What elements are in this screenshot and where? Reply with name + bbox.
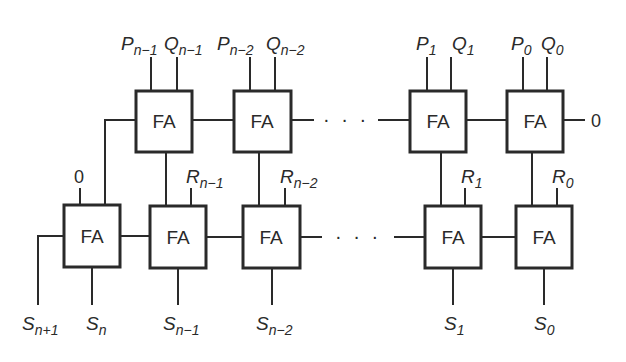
fa-block-top-1: FA (410, 91, 466, 152)
fa-label: FA (523, 111, 547, 132)
fa-block-bottom-n: FA (64, 205, 120, 267)
bottom-input-wires (80, 188, 557, 206)
top-input-labels: Pn−1 Qn−1 Pn−2 Qn−2 P1 Q1 P0 Q0 (121, 33, 564, 58)
label-s-1: S1 (444, 313, 464, 338)
label-q-1: Q1 (452, 33, 475, 58)
fa-block-top-n-1: FA (136, 91, 192, 152)
label-s-n-2: Sn−2 (256, 313, 293, 338)
output-wires (92, 267, 544, 305)
ellipsis-bottom: · · · (335, 225, 381, 247)
output-labels: Sn+1 Sn Sn−1 Sn−2 S1 S0 (22, 313, 555, 338)
label-r-n-1: Rn−1 (186, 166, 223, 191)
ellipsis-top: · · · (323, 108, 369, 130)
fa-label: FA (259, 227, 283, 248)
fa-label: FA (426, 111, 450, 132)
label-q-0: Q0 (541, 33, 564, 58)
label-p-n-1: Pn−1 (121, 33, 157, 58)
fa-label: FA (80, 226, 104, 247)
fa-label: FA (166, 227, 190, 248)
label-q-n-1: Qn−1 (164, 33, 203, 58)
full-adder-array-diagram: FA FA FA FA FA FA FA FA FA · · · · · · P… (0, 0, 626, 362)
bottom-input-labels: 0 Rn−1 Rn−2 R1 R0 (74, 166, 574, 191)
fa-block-top-0: FA (507, 91, 563, 152)
fa-block-bottom-n-1: FA (150, 206, 206, 268)
label-p-1: P1 (416, 33, 436, 58)
label-r-1: R1 (461, 166, 483, 191)
label-s-n-1: Sn−1 (163, 313, 199, 338)
fa-label: FA (152, 111, 176, 132)
label-r-0: R0 (552, 166, 574, 191)
label-s-n+1: Sn+1 (22, 313, 58, 338)
label-carry-in-zero: 0 (591, 111, 601, 131)
label-bottom-zero: 0 (74, 167, 84, 187)
label-s-0: S0 (534, 313, 555, 338)
fa-block-bottom-0: FA (516, 206, 572, 268)
fa-block-bottom-n-2: FA (243, 206, 300, 268)
fa-label: FA (532, 227, 556, 248)
label-p-0: P0 (511, 33, 532, 58)
label-p-n-2: Pn−2 (217, 33, 254, 58)
fa-label: FA (441, 227, 465, 248)
label-r-n-2: Rn−2 (280, 166, 318, 191)
fa-label: FA (250, 111, 274, 132)
fa-block-bottom-1: FA (425, 206, 481, 268)
label-s-n: Sn (86, 313, 107, 338)
label-q-n-2: Qn−2 (266, 33, 305, 58)
fa-block-top-n-2: FA (234, 91, 291, 152)
top-input-wires (151, 57, 547, 91)
